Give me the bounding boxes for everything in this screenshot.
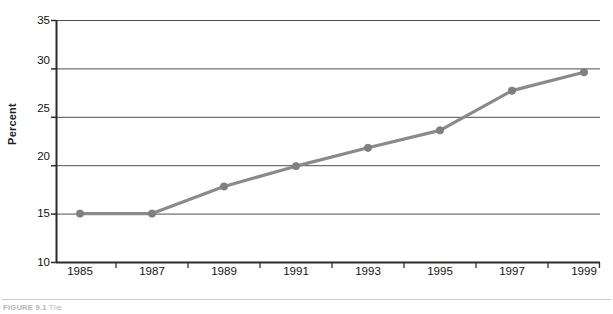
axis-ticks-group xyxy=(51,21,600,269)
data-point-1985 xyxy=(76,210,83,217)
data-point-1991 xyxy=(292,163,299,170)
axes-group xyxy=(56,20,600,263)
data-point-1993 xyxy=(364,144,371,151)
figure-container: Percent 35 30 25 20 15 10 1985 1987 1989… xyxy=(0,0,613,314)
data-line xyxy=(80,72,584,213)
data-point-1989 xyxy=(220,183,227,190)
data-point-1999 xyxy=(580,69,587,76)
gridlines-group xyxy=(56,21,600,215)
plot-area xyxy=(0,0,613,314)
figure-caption: FIGURE 9.1 The xyxy=(3,303,603,312)
data-point-1995 xyxy=(436,127,443,134)
caption-divider xyxy=(2,299,611,300)
figure-caption-text: The xyxy=(49,303,62,312)
figure-number: FIGURE 9.1 xyxy=(3,303,47,312)
data-markers-group xyxy=(76,69,587,218)
data-line-group xyxy=(80,72,584,213)
data-point-1987 xyxy=(148,210,155,217)
data-point-1997 xyxy=(508,87,515,94)
